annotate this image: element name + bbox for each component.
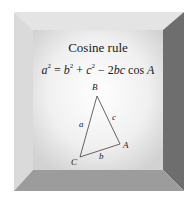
left-bevel xyxy=(14,12,33,191)
side-label-b: b xyxy=(99,152,104,161)
side-label-c: c xyxy=(112,113,116,122)
vertex-label-c: C xyxy=(71,158,77,167)
cosine-rule-formula: a2 = b2 + c2 − 2bc cos A xyxy=(33,62,163,78)
side-label-a: a xyxy=(79,120,84,129)
card-title: Cosine rule xyxy=(33,40,163,56)
top-bevel xyxy=(14,12,184,30)
vertex-label-a: A xyxy=(123,141,129,150)
bottom-bevel xyxy=(14,170,184,191)
vertex-label-b: B xyxy=(92,83,98,92)
right-bevel xyxy=(163,12,184,191)
beveled-frame xyxy=(0,0,195,201)
